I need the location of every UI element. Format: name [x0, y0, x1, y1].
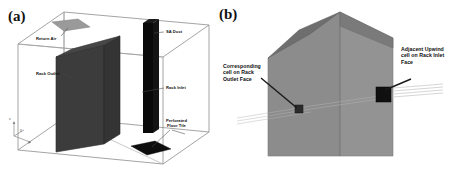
perforated-floor-tile: [131, 141, 171, 155]
cell-marker-rack-outlet: [295, 105, 303, 113]
panel-b-drawing: [215, 0, 457, 174]
callout-sa-duct: SA Duct: [166, 29, 182, 34]
sa-duct: [143, 19, 159, 133]
callout-rack-inlet: Rack Inlet: [166, 85, 186, 90]
figure-container: (a): [0, 0, 457, 174]
rack-body: [56, 36, 120, 152]
axis-label-y: y: [20, 128, 22, 132]
axis-label-x: x: [29, 140, 31, 144]
callout-rack-outlet: Rack Outlet: [36, 71, 59, 76]
cell-marker-rack-inlet: [376, 87, 391, 102]
panel-a: (a): [0, 0, 220, 174]
streamlines-inlet: [393, 84, 443, 97]
axis-label-z: z: [9, 117, 11, 121]
callout-perforated-floor-tile: Perforated Floor Tile: [166, 118, 187, 128]
rack-closeup-body: [268, 12, 393, 156]
panel-b: (b): [215, 0, 457, 174]
callout-adjacent-upwind-cell-inlet: Adjacent Upwind cell on Rack Inlet Face: [401, 46, 444, 65]
return-air-tile: [52, 19, 90, 31]
callout-return-air: Return Air: [36, 36, 56, 41]
panel-a-drawing: [0, 0, 220, 174]
callout-corresponding-cell-outlet: Corresponding cell on Rack Outlet Face: [223, 63, 261, 82]
